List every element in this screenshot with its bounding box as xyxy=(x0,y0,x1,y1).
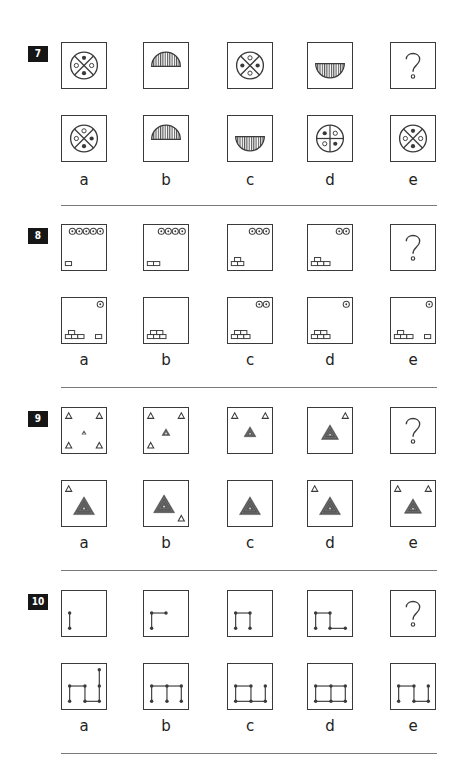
answer-label-d[interactable]: d xyxy=(307,717,353,735)
answer-label-c[interactable]: c xyxy=(227,351,273,369)
tri-big-tl2-figure-icon xyxy=(308,481,352,526)
section-divider xyxy=(61,753,437,754)
circle-x-dots-a-figure-icon xyxy=(62,116,106,161)
half-disc-up-figure-icon xyxy=(144,116,188,161)
answer-option-e[interactable] xyxy=(390,115,436,162)
answer-label-b[interactable]: b xyxy=(143,534,189,552)
tri-4corners-small-figure-icon xyxy=(62,408,106,453)
question-figure-icon xyxy=(391,408,435,453)
tri-3corners-med-figure-icon xyxy=(144,408,188,453)
sequence-cell-1 xyxy=(61,407,107,454)
answer-option-a[interactable] xyxy=(61,297,107,344)
answer-option-c[interactable] xyxy=(227,480,273,527)
answer-label-b[interactable]: b xyxy=(143,717,189,735)
answer-label-a[interactable]: a xyxy=(61,534,107,552)
coin1-brick4-plus1-figure-icon xyxy=(62,298,106,343)
answer-option-b[interactable] xyxy=(143,115,189,162)
coin1-brick5-figure-icon xyxy=(308,298,352,343)
question-number-badge: 8 xyxy=(28,228,48,244)
answer-label-c[interactable]: c xyxy=(227,717,273,735)
coins2-brick4-figure-icon xyxy=(308,225,352,270)
answer-label-c[interactable]: c xyxy=(227,534,273,552)
coins4-brick2-figure-icon xyxy=(144,225,188,270)
missing-figure-cell xyxy=(390,42,436,89)
sequence-cell-3 xyxy=(227,590,273,637)
answer-option-c[interactable] xyxy=(227,663,273,710)
missing-figure-cell xyxy=(390,590,436,637)
sequence-cell-4 xyxy=(307,407,353,454)
tri-2corners-large-figure-icon xyxy=(228,408,272,453)
answer-label-e[interactable]: e xyxy=(390,171,436,189)
circle-x-dots-v-figure-icon xyxy=(391,116,435,161)
sequence-cell-2 xyxy=(143,224,189,271)
section-divider xyxy=(61,570,437,571)
section-divider xyxy=(61,205,437,206)
answer-label-d[interactable]: d xyxy=(307,534,353,552)
sequence-cell-4 xyxy=(307,590,353,637)
question-number-badge: 9 xyxy=(28,411,48,427)
circle-plus-dots-figure-icon xyxy=(308,116,352,161)
ans-c-figure-icon xyxy=(228,664,272,709)
answer-option-d[interactable] xyxy=(307,663,353,710)
answer-option-a[interactable] xyxy=(61,663,107,710)
sequence-cell-3 xyxy=(227,224,273,271)
answer-option-c[interactable] xyxy=(227,297,273,344)
answer-label-c[interactable]: c xyxy=(227,171,273,189)
answer-label-d[interactable]: d xyxy=(307,171,353,189)
answer-label-a[interactable]: a xyxy=(61,717,107,735)
sequence-cell-4 xyxy=(307,224,353,271)
answer-label-b[interactable]: b xyxy=(143,351,189,369)
sequence-cell-2 xyxy=(143,590,189,637)
sequence-cell-3 xyxy=(227,42,273,89)
answer-option-e[interactable] xyxy=(390,663,436,710)
path3-figure-icon xyxy=(228,591,272,636)
sequence-cell-1 xyxy=(61,590,107,637)
missing-figure-cell xyxy=(390,407,436,454)
answer-option-c[interactable] xyxy=(227,115,273,162)
coins3-brick3-figure-icon xyxy=(228,225,272,270)
answer-option-a[interactable] xyxy=(61,480,107,527)
sequence-cell-4 xyxy=(307,42,353,89)
answer-option-b[interactable] xyxy=(143,297,189,344)
answer-option-d[interactable] xyxy=(307,480,353,527)
missing-figure-cell xyxy=(390,224,436,271)
answer-label-e[interactable]: e xyxy=(390,717,436,735)
half-disc-down-figure-icon xyxy=(228,116,272,161)
answer-option-e[interactable] xyxy=(390,297,436,344)
circle-x-dots-h-figure-icon xyxy=(228,43,272,88)
coin1-brick3-plus1-figure-icon xyxy=(391,298,435,343)
coins2-brick5-figure-icon xyxy=(228,298,272,343)
answer-option-e[interactable] xyxy=(390,480,436,527)
answer-label-a[interactable]: a xyxy=(61,351,107,369)
coins5-brick1-figure-icon xyxy=(62,225,106,270)
sequence-cell-2 xyxy=(143,407,189,454)
path4-figure-icon xyxy=(308,591,352,636)
answer-label-e[interactable]: e xyxy=(390,351,436,369)
question-number-badge: 7 xyxy=(28,46,48,62)
ans-a-figure-icon xyxy=(62,664,106,709)
answer-option-d[interactable] xyxy=(307,297,353,344)
question-number-badge: 10 xyxy=(28,594,48,610)
ans-d-figure-icon xyxy=(308,664,352,709)
circle-x-dots-v-figure-icon xyxy=(62,43,106,88)
half-disc-up-figure-icon xyxy=(144,43,188,88)
answer-label-a[interactable]: a xyxy=(61,171,107,189)
answer-option-d[interactable] xyxy=(307,115,353,162)
path1-figure-icon xyxy=(62,591,106,636)
answer-option-b[interactable] xyxy=(143,480,189,527)
tri-1corner-xlarge-figure-icon xyxy=(308,408,352,453)
sequence-cell-1 xyxy=(61,42,107,89)
question-figure-icon xyxy=(391,591,435,636)
answer-option-a[interactable] xyxy=(61,115,107,162)
ans-e-figure-icon xyxy=(391,664,435,709)
answer-label-e[interactable]: e xyxy=(390,534,436,552)
answer-option-b[interactable] xyxy=(143,663,189,710)
question-figure-icon xyxy=(391,225,435,270)
answer-label-b[interactable]: b xyxy=(143,171,189,189)
tri-big-br-figure-icon xyxy=(144,481,188,526)
tri-med-2top-figure-icon xyxy=(391,481,435,526)
half-disc-down-figure-icon xyxy=(308,43,352,88)
answer-label-d[interactable]: d xyxy=(307,351,353,369)
tri-big-none-figure-icon xyxy=(228,481,272,526)
path2-figure-icon xyxy=(144,591,188,636)
